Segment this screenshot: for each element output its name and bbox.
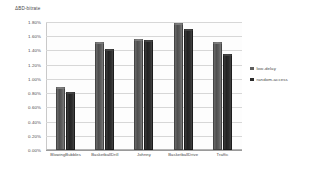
y-axis-tick-label: 0.00% — [28, 148, 41, 153]
y-axis-tick-label: 0.60% — [28, 105, 41, 110]
y-axis-tick-label: 0.20% — [28, 133, 41, 138]
bar-cap — [174, 23, 183, 25]
y-axis-tick-label: 0.80% — [28, 91, 41, 96]
y-axis-tick-label: 1.00% — [28, 76, 41, 81]
bar-cap — [213, 42, 222, 44]
bar-group — [205, 22, 239, 150]
bar-cap — [144, 40, 153, 42]
x-axis-tick-label: Traffic — [203, 152, 242, 166]
bar-random-access[interactable] — [105, 49, 114, 150]
bar-group — [88, 22, 122, 150]
bar-groups — [46, 22, 242, 150]
bar-low-delay[interactable] — [95, 42, 104, 150]
legend-item[interactable]: low-delay — [250, 66, 288, 71]
bar-cap — [105, 49, 114, 51]
bar-random-access[interactable] — [184, 29, 193, 150]
bar-group — [127, 22, 161, 150]
y-axis-tick-label: 1.80% — [28, 20, 41, 25]
x-axis-tick-labels: BlowingBubblesBasketballDrillJohnnyBaske… — [46, 152, 242, 166]
y-axis-tick-label: 1.40% — [28, 48, 41, 53]
bar-group — [49, 22, 83, 150]
bar-random-access[interactable] — [66, 92, 75, 150]
bar-cap — [56, 87, 65, 89]
y-axis-title: ΔBD-bitrate — [15, 6, 40, 12]
y-axis-tick-labels: 1.80%1.60%1.40%1.20%1.00%0.80%0.60%0.40%… — [0, 22, 44, 150]
y-axis-tick-label: 0.40% — [28, 119, 41, 124]
bar-random-access[interactable] — [144, 40, 153, 150]
bar-cap — [95, 42, 104, 44]
bar-random-access[interactable] — [223, 54, 232, 150]
bar-cap — [184, 29, 193, 31]
legend-label: low-delay — [257, 66, 276, 71]
bar-low-delay[interactable] — [174, 23, 183, 150]
plot-area — [46, 22, 242, 150]
bar-cap — [223, 54, 232, 56]
x-axis-tick-label: Johnny — [124, 152, 163, 166]
bar-low-delay[interactable] — [213, 42, 222, 150]
bar-group — [166, 22, 200, 150]
bar-cap — [134, 39, 143, 41]
y-axis-tick-label: 1.60% — [28, 34, 41, 39]
legend-swatch-icon — [250, 78, 254, 82]
y-axis-tick-label: 1.20% — [28, 62, 41, 67]
bar-chart: ΔBD-bitrate 1.80%1.60%1.40%1.20%1.00%0.8… — [0, 0, 318, 174]
legend-item[interactable]: random-access — [250, 77, 288, 82]
bar-cap — [66, 92, 75, 94]
chart-legend: low-delayrandom-access — [250, 66, 288, 82]
legend-label: random-access — [257, 77, 288, 82]
x-axis-tick-label: BasketballDrive — [164, 152, 203, 166]
bar-low-delay[interactable] — [134, 39, 143, 150]
x-axis-tick-label: BasketballDrill — [85, 152, 124, 166]
bar-low-delay[interactable] — [56, 87, 65, 150]
axis-baseline — [46, 150, 242, 151]
x-axis-tick-label: BlowingBubbles — [46, 152, 85, 166]
legend-swatch-icon — [250, 67, 254, 71]
